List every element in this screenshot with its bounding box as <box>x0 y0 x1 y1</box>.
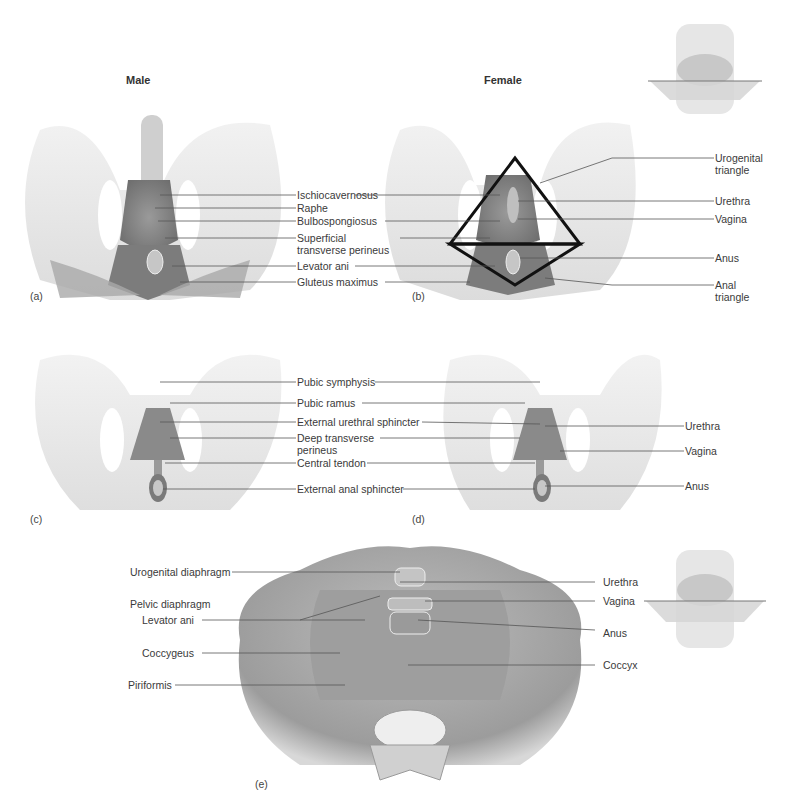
label-e-levator-ani: Levator ani <box>142 614 194 626</box>
label-d-urethra: Urethra <box>685 420 720 432</box>
label-urogenital-triangle: Urogenital triangle <box>715 152 775 176</box>
label-piriformis: Piriformis <box>128 679 172 691</box>
label-b-urethra: Urethra <box>715 195 750 207</box>
label-coccygeus: Coccygeus <box>142 647 194 659</box>
panel-c-label: (c) <box>30 513 42 525</box>
anatomy-illustrations <box>0 0 797 810</box>
label-external-anal-sphincter: External anal sphincter <box>297 483 404 495</box>
label-superficial-transverse-perineus: Superficial transverse perineus <box>297 232 397 256</box>
label-urogenital-diaphragm: Urogenital diaphragm <box>130 566 230 578</box>
panel-e-label: (e) <box>255 778 268 790</box>
label-pubic-symphysis: Pubic symphysis <box>297 376 375 388</box>
label-levator-ani: Levator ani <box>297 260 349 272</box>
label-e-anus: Anus <box>603 627 627 639</box>
panel-e-illustration <box>239 546 582 780</box>
label-anal-triangle: Anal triangle <box>715 279 765 303</box>
label-d-vagina: Vagina <box>685 445 717 457</box>
label-d-anus: Anus <box>685 480 709 492</box>
panel-a-illustration <box>25 115 281 300</box>
label-bulbospongiosus: Bulbospongiosus <box>297 215 377 227</box>
label-e-vagina: Vagina <box>603 595 635 607</box>
panel-b-label: (b) <box>412 290 425 302</box>
label-b-anus: Anus <box>715 252 739 264</box>
panel-c-illustration <box>35 355 281 510</box>
panel-a-label: (a) <box>30 290 43 302</box>
orientation-thumbnail-2 <box>644 550 766 648</box>
panel-d-label: (d) <box>412 513 425 525</box>
panel-d-illustration <box>443 355 661 510</box>
label-gluteus-maximus: Gluteus maximus <box>297 276 378 288</box>
label-pubic-ramus: Pubic ramus <box>297 397 355 409</box>
label-external-urethral-sphincter: External urethral sphincter <box>297 416 420 428</box>
label-raphe: Raphe <box>297 202 328 214</box>
label-coccyx: Coccyx <box>603 659 637 671</box>
label-pelvic-diaphragm: Pelvic diaphragm <box>130 598 211 610</box>
label-deep-transverse-perineus: Deep transverse perineus <box>297 432 382 456</box>
label-central-tendon: Central tendon <box>297 457 366 469</box>
orientation-thumbnail-1 <box>648 24 762 114</box>
panel-b-illustration <box>385 123 636 301</box>
label-e-urethra: Urethra <box>603 576 638 588</box>
label-b-vagina: Vagina <box>715 213 747 225</box>
label-ischiocavernosus: Ischiocavernosus <box>297 189 378 201</box>
